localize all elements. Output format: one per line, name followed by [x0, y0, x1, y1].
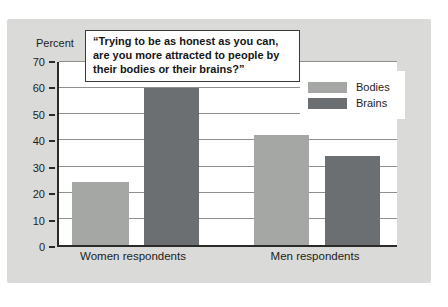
- legend-item-bodies: Bodies: [308, 81, 405, 93]
- y-tick-mark-30: [49, 167, 55, 169]
- x-axis-labels: Women respondents Men respondents: [57, 250, 397, 266]
- legend: Bodies Brains: [300, 71, 405, 119]
- legend-swatch-brains: [308, 98, 347, 109]
- y-tick-mark-0: [49, 246, 55, 248]
- category-label-men: Men respondents: [271, 250, 360, 262]
- y-tick-mark-60: [49, 87, 55, 89]
- y-axis: 010203040506070: [7, 62, 57, 247]
- y-tick-label-10: 10: [33, 215, 45, 226]
- y-tick-mark-10: [49, 220, 55, 222]
- y-tick-label-20: 20: [33, 189, 45, 200]
- chart-panel: Percent “Trying to be as honest as you c…: [7, 19, 431, 283]
- y-tick-label-30: 30: [33, 162, 45, 173]
- y-tick-mark-40: [49, 140, 55, 142]
- legend-item-brains: Brains: [308, 97, 405, 109]
- figure: Percent “Trying to be as honest as you c…: [0, 0, 448, 307]
- bar-men-bodies: [254, 135, 309, 245]
- bar-women-brains: [144, 88, 199, 245]
- y-tick-label-0: 0: [39, 242, 45, 253]
- category-label-women: Women respondents: [80, 250, 186, 262]
- y-tick-label-60: 60: [33, 83, 45, 94]
- legend-label-bodies: Bodies: [356, 81, 390, 93]
- y-tick-label-40: 40: [33, 136, 45, 147]
- bar-women-bodies: [72, 182, 129, 245]
- bar-men-brains: [325, 156, 380, 245]
- y-tick-mark-20: [49, 193, 55, 195]
- survey-question-box: “Trying to be as honest as you can, are …: [85, 30, 300, 82]
- gridline-40: [59, 139, 397, 140]
- y-tick-mark-50: [49, 114, 55, 116]
- y-tick-label-50: 50: [33, 109, 45, 120]
- y-axis-title: Percent: [36, 37, 74, 49]
- legend-swatch-bodies: [308, 82, 347, 93]
- y-tick-mark-70: [49, 61, 55, 63]
- legend-label-brains: Brains: [356, 97, 387, 109]
- y-tick-label-70: 70: [33, 57, 45, 68]
